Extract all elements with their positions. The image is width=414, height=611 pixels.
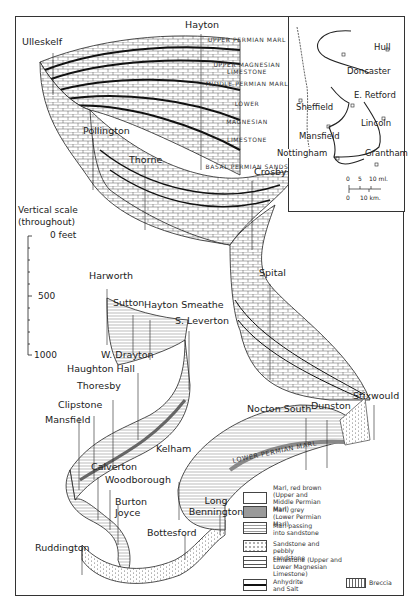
map-scale-km-0: 0 <box>346 195 350 201</box>
borehole-label: Woodborough <box>105 475 171 485</box>
borehole-label: Hayton Smeathe <box>144 300 224 310</box>
map-place-mansfield: Mansfield <box>299 132 340 141</box>
map-scale-miles-10: 10 ml. <box>369 176 388 182</box>
borehole-label: S. Leverton <box>175 316 229 326</box>
swatch-breccia <box>346 578 366 588</box>
vertical-scale-bar <box>28 236 32 355</box>
strat-label: MAGNESIAN <box>204 118 290 125</box>
borehole-label: Hayton <box>185 20 219 30</box>
swatch-dots <box>243 540 267 552</box>
vertical-scale-tick: 0 feet <box>50 230 76 240</box>
borehole-label: W. Drayton <box>101 350 154 360</box>
borehole-label: Nocton South <box>247 404 311 414</box>
borehole-label: Thorne <box>129 155 162 165</box>
map-place-lincoln: Lincoln <box>361 119 391 128</box>
map-place-doncaster: Doncaster <box>347 67 391 76</box>
vertical-scale-tick: 1000 <box>34 350 57 360</box>
borehole-label: Thoresby <box>77 381 121 391</box>
borehole-label: Clipstone <box>58 400 102 410</box>
borehole-label: Sutton <box>113 298 144 308</box>
swatch-grey <box>243 506 267 518</box>
legend-item-breccia: Breccia <box>346 578 392 588</box>
vertical-scale-tick: 500 <box>38 291 55 301</box>
map-place-e-retford: E. Retford <box>354 91 396 100</box>
legend-item-anhydrite: Anhydrite and Salt <box>243 578 303 592</box>
strat-label: UPPER MAGNESIAN LIMESTONE <box>204 61 290 75</box>
borehole-label: Long Bennington <box>186 496 246 518</box>
borehole-label: Kelham <box>156 444 191 454</box>
map-place-grantham: Grantham <box>365 149 408 158</box>
borehole-label: Harworth <box>89 271 133 281</box>
borehole-label: Stixwould <box>353 391 399 401</box>
strat-label: MIDDLE PERMIAN MARL <box>204 80 290 87</box>
legend-item-marl-sandstone: Marl passing into sandstone <box>243 522 323 536</box>
swatch-dotted-lines <box>243 522 267 534</box>
borehole-label: Spital <box>259 268 286 278</box>
inset-map: Hull Doncaster Sheffield E. Retford Linc… <box>288 16 405 212</box>
map-place-nottingham: Nottingham <box>277 149 327 158</box>
borehole-label: Pollington <box>83 126 130 136</box>
swatch-blank <box>243 492 267 504</box>
section-spital-stixwould <box>230 205 370 400</box>
strat-label: UPPER PERMIAN MARL <box>204 36 290 43</box>
borehole-label: Dunston <box>311 401 351 411</box>
borehole-label: Haughton Hall <box>67 364 135 374</box>
map-scale-miles-0: 0 <box>346 176 350 182</box>
vertical-scale-title: Vertical scale <box>18 205 78 215</box>
borehole-label: Ulleskelf <box>22 37 62 47</box>
borehole-label: Calverton <box>91 462 137 472</box>
map-place-hull: Hull <box>374 43 391 52</box>
map-scale-km-10: 10 km. <box>360 195 381 201</box>
borehole-label: Mansfield <box>45 415 91 425</box>
swatch-brick <box>243 556 267 568</box>
borehole-label: Bottesford <box>147 528 197 538</box>
borehole-label: Crosby <box>254 167 287 177</box>
strat-label: LOWER <box>204 100 290 107</box>
borehole-label: Burton Joyce <box>115 497 151 519</box>
strat-label: LIMESTONE <box>204 136 290 143</box>
map-scale-bar <box>349 185 381 193</box>
borehole-label: Ruddington <box>35 543 90 553</box>
map-place-sheffield: Sheffield <box>296 103 333 112</box>
swatch-black-line <box>243 579 267 591</box>
map-scale-miles-5: 5 <box>358 176 362 182</box>
legend-item-limestone: Limestone (Upper and Lower Magnesian Lim… <box>243 556 343 577</box>
vertical-scale-subtitle: (throughout) <box>18 217 75 227</box>
